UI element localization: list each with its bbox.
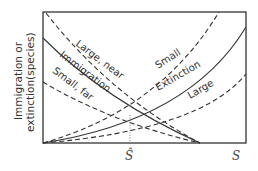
label-small: Small: [153, 46, 182, 70]
label-large: Large: [186, 77, 216, 101]
island-biogeography-diagram: Large, near Immigration Small, far Small…: [0, 0, 258, 171]
y-axis-label-line1: Immigration or: [12, 41, 24, 120]
x-axis-end-label: S: [232, 149, 240, 163]
y-axis-label-line2: extinction(species): [24, 33, 36, 132]
equilibrium-label: Ŝ: [125, 147, 133, 163]
